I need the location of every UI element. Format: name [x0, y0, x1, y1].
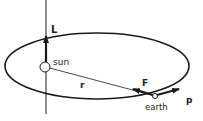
- label-L: L: [51, 24, 58, 35]
- label-r: r: [80, 80, 85, 90]
- label-earth: earth: [145, 102, 168, 112]
- label-F: F: [142, 78, 148, 88]
- earth-icon: [153, 94, 158, 99]
- label-sun: sun: [53, 57, 69, 67]
- orbit-ellipse: [5, 33, 189, 99]
- label-p: p: [186, 95, 193, 105]
- orbit-diagram: L r sun F p earth: [0, 0, 203, 121]
- sun-icon: [40, 62, 50, 72]
